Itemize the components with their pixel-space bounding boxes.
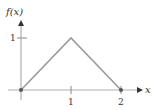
triangular-function-plot: x f(x) 1 2 1 [0,0,152,110]
x-axis-label: x [145,84,151,95]
y-tick-label-1: 1 [10,33,16,43]
x-axis-arrow-icon [137,87,143,93]
endpoint-marker-x2 [119,88,123,92]
endpoint-marker-origin [19,88,23,92]
y-axis-arrow-icon [18,20,24,26]
function-line [21,38,121,90]
y-axis-label: f(x) [5,6,23,17]
x-tick-label-1: 1 [68,97,74,107]
x-tick-label-2: 2 [118,97,124,107]
